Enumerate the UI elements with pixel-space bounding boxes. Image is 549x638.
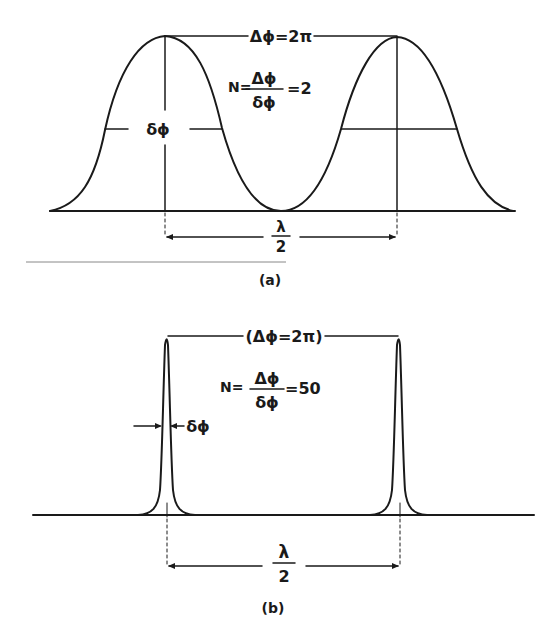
width-arrowhead-left-b <box>155 423 162 429</box>
arrowhead-right-a <box>389 234 396 240</box>
n-denominator-a: δϕ <box>252 93 276 112</box>
caption-a: (a) <box>259 272 281 288</box>
width-label-b: δϕ <box>186 417 210 436</box>
n-denominator-b: δϕ <box>255 393 279 412</box>
n-value-b: =50 <box>285 379 321 398</box>
intensity-peak-right-b <box>370 339 427 515</box>
spacing-numerator-b: λ <box>279 542 290 562</box>
panel-b: (Δϕ=2π) δϕ N= Δϕ δϕ =50 λ 2 (b) <box>33 327 534 616</box>
spacing-denominator-b: 2 <box>278 567 289 586</box>
intensity-curve-a <box>50 36 513 211</box>
n-value-a: =2 <box>287 79 312 98</box>
period-label-a: Δϕ=2π <box>250 27 312 46</box>
width-label-a: δϕ <box>146 120 170 139</box>
caption-b: (b) <box>262 600 285 616</box>
n-prefix-b: N= <box>220 379 243 395</box>
period-label-b: (Δϕ=2π) <box>246 327 323 346</box>
panel-a: Δϕ=2π δϕ N= Δϕ δϕ =2 λ 2 (a) <box>26 27 515 288</box>
n-numerator-a: Δϕ <box>251 69 276 88</box>
arrowhead-right-b <box>392 563 399 569</box>
n-prefix-a: N= <box>228 79 251 95</box>
arrowhead-left-b <box>168 563 175 569</box>
spacing-numerator-a: λ <box>276 218 286 236</box>
arrowhead-left-a <box>166 234 173 240</box>
spacing-denominator-a: 2 <box>276 238 286 256</box>
diagram-canvas: Δϕ=2π δϕ N= Δϕ δϕ =2 λ 2 (a) <box>0 0 549 638</box>
n-numerator-b: Δϕ <box>254 369 279 388</box>
